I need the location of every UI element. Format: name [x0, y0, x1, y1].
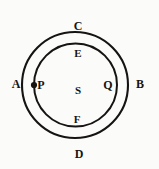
- point-p-marker: [31, 82, 37, 88]
- label-a: A: [12, 78, 21, 90]
- label-s: S: [75, 85, 81, 96]
- geometry-figure: A B C D E F P Q S: [0, 0, 159, 169]
- label-f: F: [74, 114, 81, 125]
- label-e: E: [74, 48, 81, 59]
- label-q: Q: [103, 79, 112, 91]
- label-b: B: [136, 78, 144, 90]
- label-p: P: [37, 79, 44, 91]
- label-c: C: [74, 20, 83, 32]
- label-d: D: [75, 148, 84, 160]
